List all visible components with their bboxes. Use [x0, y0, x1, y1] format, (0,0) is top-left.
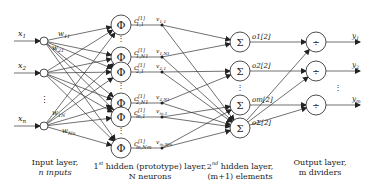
prototype-center-label: c[1]1,N1	[134, 47, 148, 59]
hidden2-caption-line1: 2nd hidden layer,	[200, 158, 280, 172]
input-node	[40, 37, 48, 45]
output-layer-caption-line2: m dividers	[285, 168, 355, 178]
ellipsis-hidden1: ⋮	[117, 81, 125, 90]
connection-edge	[48, 72, 111, 73]
input-layer-caption: Input layer, n inputs	[20, 158, 90, 178]
prototype-center-label: c[1]m,Nm	[134, 138, 152, 150]
weight-label-w1N: w1N	[52, 109, 66, 118]
ellipsis-outputs: ⋮	[334, 83, 342, 92]
input-node	[40, 122, 48, 130]
input-label: xn	[18, 114, 27, 124]
v-weight-label: v1,1	[156, 15, 166, 24]
sigma-output-label: o2[2]	[252, 62, 271, 70]
hidden1-caption-line1: 1st hidden (prototype) layer,	[85, 158, 215, 172]
output-layer-caption: Output layer, m dividers	[285, 158, 355, 178]
hidden1-caption: 1st hidden (prototype) layer, N neurons	[85, 158, 215, 182]
ellipsis-inputs: ⋮	[40, 95, 49, 105]
sigma-symbol: Σ	[236, 100, 243, 111]
phi-symbol: Φ	[116, 142, 125, 155]
phi-symbol: Φ	[116, 111, 125, 124]
phi-symbol: Φ	[116, 97, 125, 110]
v-weight-label: v2,1	[156, 62, 166, 71]
input-layer-caption-line2: n inputs	[20, 168, 90, 178]
sigma-symbol: Σ	[236, 66, 243, 77]
hidden1-caption-line2: N neurons	[85, 172, 215, 182]
output-layer-caption-line1: Output layer,	[285, 158, 355, 168]
prototype-center-label: c[1]m,1	[134, 107, 146, 119]
weight-label-w11: w11	[58, 30, 70, 39]
connection-edge	[162, 71, 230, 72]
divide-symbol: ÷	[312, 67, 320, 77]
hidden2-caption-line2: (m+1) elements	[200, 172, 280, 182]
prototype-center-label: c[1]1,1	[134, 15, 145, 27]
input-node	[40, 69, 48, 77]
phi-symbol: Φ	[116, 51, 125, 64]
connection-edge	[162, 25, 234, 120]
weight-label-w21: w21	[52, 44, 64, 53]
sigma-symbol: Σ	[236, 37, 243, 48]
divide-symbol: ÷	[312, 101, 320, 111]
sigma-output-label: oΣ[2]	[252, 119, 271, 127]
input-layer-caption-line1: Input layer,	[20, 158, 90, 168]
connection-edge	[162, 107, 230, 117]
sigma-output-label: o1[2]	[252, 33, 271, 41]
neural-network-diagram: x1x2xnw11w21w1NwNn⋮Φc[1]1,1v1,1Φc[1]1,N1…	[0, 0, 377, 184]
connection-edge	[162, 25, 230, 40]
output-label: y1	[351, 32, 359, 41]
divide-symbol: ÷	[312, 38, 320, 48]
connection-edge	[46, 44, 115, 140]
connection-edge	[162, 44, 230, 57]
connection-edge	[48, 59, 111, 72]
hidden2-caption: 2nd hidden layer, (m+1) elements	[200, 158, 280, 182]
prototype-center-label: c[1]2,1	[134, 62, 145, 74]
ellipsis-hidden2: ⋮	[236, 83, 244, 92]
sigma-output-label: om[2]	[252, 96, 273, 104]
weight-label-wNn: wNn	[62, 127, 75, 136]
phi-symbol: Φ	[116, 66, 125, 79]
phi-symbol: Φ	[116, 19, 125, 32]
v-weight-label: v2,N1	[156, 93, 170, 102]
v-weight-label: vm,1	[156, 107, 167, 116]
output-label: ym	[351, 95, 361, 104]
v-weight-label: vm,Nm	[156, 138, 172, 147]
sigma-symbol: Σ	[236, 123, 243, 134]
output-label: y2	[351, 61, 359, 70]
connection-edge	[48, 74, 112, 99]
input-label: x2	[18, 61, 27, 71]
input-label: x1	[18, 29, 26, 39]
connection-edge	[162, 72, 232, 122]
ellipsis-hidden1: ⋮	[117, 126, 125, 135]
prototype-center-label: c[1]2,N1	[134, 93, 148, 105]
v-weight-label: v1,N1	[156, 47, 170, 56]
ellipsis-hidden1: ⋮	[117, 34, 125, 43]
